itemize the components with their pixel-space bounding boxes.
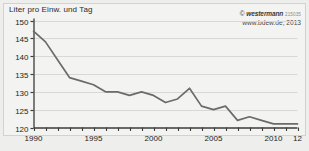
chart-figure: Liter pro Einw. und Tag © westermann 215… [0,0,309,151]
y-tick-label: 125 [15,107,29,116]
y-tick-label: 145 [15,35,29,44]
x-tick-label: 1995 [85,134,103,143]
x-tick-label: 2000 [145,134,163,143]
y-tick-label: 140 [15,53,29,62]
x-tick-label: 2010 [265,134,283,143]
x-tick-label: 2005 [205,134,223,143]
x-tick-label: 12 [293,134,302,143]
y-tick-label: 150 [15,18,29,27]
chart-plot: 120125130135140145150 199019952000200520… [0,0,309,151]
y-tick-label: 120 [15,125,29,134]
y-tick-group [31,22,34,129]
x-tick-label-group: 1990199520002005201012 [25,134,303,143]
y-tick-label-group: 120125130135140145150 [15,18,29,134]
x-tick-label: 1990 [25,134,43,143]
y-tick-label: 130 [15,89,29,98]
gridlines-group [34,22,298,111]
axis-lines [34,19,298,129]
y-tick-label: 135 [15,71,29,80]
